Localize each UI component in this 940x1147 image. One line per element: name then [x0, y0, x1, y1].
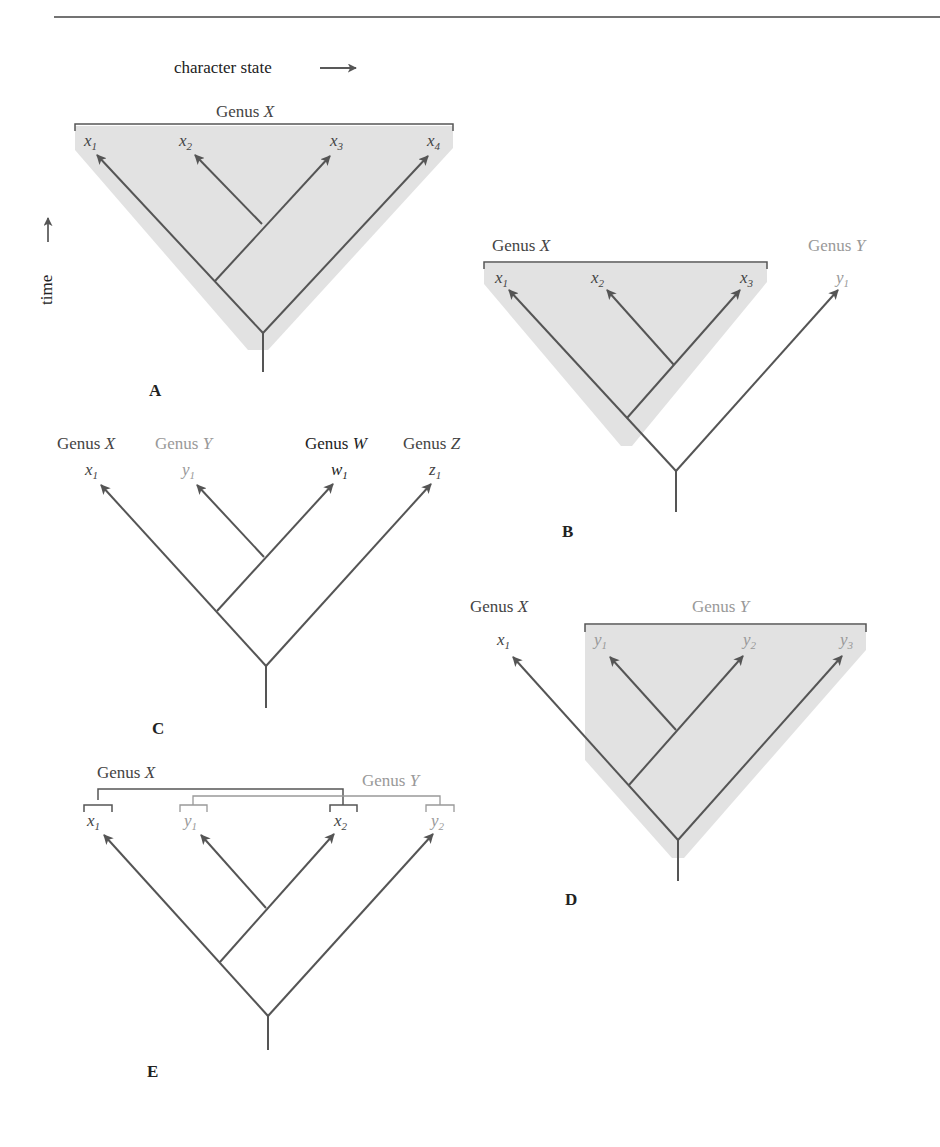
- time-label: time: [37, 275, 56, 305]
- genus-y-label: Genus Y: [808, 236, 867, 255]
- genus-x-label: Genus X: [216, 102, 275, 121]
- tip-labels: x1 y1 x2 y2: [86, 811, 445, 832]
- x-axis-label: character state: [174, 58, 356, 77]
- svg-text:x1: x1: [84, 460, 98, 481]
- genus-x-label: Genus X: [97, 763, 156, 782]
- svg-text:w1: w1: [331, 460, 348, 481]
- panel-label-e: E: [147, 1062, 158, 1081]
- svg-text:y2: y2: [429, 811, 445, 832]
- svg-text:y1: y1: [180, 460, 195, 481]
- genus-labels: Genus X Genus Y Genus W Genus Z: [57, 434, 461, 453]
- panel-b: Genus X Genus Y x1 x2 x3 y1 B: [484, 236, 867, 541]
- tip-labels: x1 y1 w1 z1: [84, 460, 441, 481]
- panel-label-d: D: [565, 890, 577, 909]
- panel-label-a: A: [149, 381, 162, 400]
- svg-text:x2: x2: [333, 811, 348, 832]
- svg-text:y1: y1: [182, 811, 197, 832]
- panel-e: Genus X Genus Y x1 y1 x2 y2 E: [84, 763, 454, 1081]
- genus-z-label: Genus Z: [403, 434, 461, 453]
- genus-x-shade: [75, 126, 453, 350]
- genus-w-label: Genus W: [305, 434, 369, 453]
- tree-branches: [104, 834, 433, 1050]
- panel-c: Genus X Genus Y Genus W Genus Z x1 y1 w1…: [57, 434, 461, 738]
- genus-x-label: Genus X: [470, 597, 529, 616]
- genus-y-label: Genus Y: [362, 771, 421, 790]
- svg-text:x1: x1: [86, 811, 100, 832]
- genus-x-shade: [484, 263, 767, 446]
- genus-y-label: Genus Y: [692, 597, 751, 616]
- panel-label-b: B: [562, 522, 573, 541]
- phylogeny-figure: character state time Genus X x1 x2 x3 x4…: [0, 0, 940, 1147]
- panel-a: Genus X x1 x2 x3 x4 A: [75, 102, 453, 400]
- character-state-label: character state: [174, 58, 272, 77]
- panel-label-c: C: [152, 719, 164, 738]
- genus-x-label: Genus X: [57, 434, 116, 453]
- genus-y-bracket: [180, 796, 454, 812]
- panel-d: Genus X Genus Y x1 y1 y2 y3 D: [470, 597, 866, 909]
- genus-y-shade: [585, 625, 866, 858]
- genus-y-label: Genus Y: [155, 434, 214, 453]
- svg-text:z1: z1: [428, 460, 441, 481]
- svg-text:y1: y1: [834, 268, 849, 289]
- y-axis-label: time: [37, 218, 56, 305]
- genus-x-label: Genus X: [492, 236, 551, 255]
- svg-text:x1: x1: [496, 630, 510, 651]
- genus-x-bracket: [84, 789, 357, 812]
- tree-branches: [101, 484, 431, 708]
